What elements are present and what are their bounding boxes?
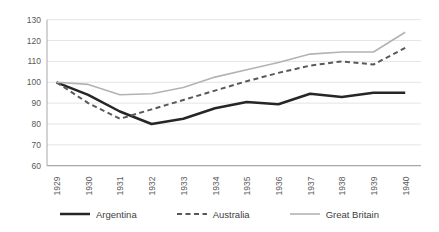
x-tick-label-1935: 1935	[242, 176, 252, 195]
x-tick-label-1934: 1934	[211, 176, 221, 195]
x-tick-label-1936: 1936	[274, 176, 284, 195]
y-tick-label-110: 110	[27, 56, 41, 66]
legend-label-great-britain: Great Britain	[326, 209, 379, 220]
chart-legend: ArgentinaAustraliaGreat Britain	[0, 205, 439, 223]
y-tick-label-60: 60	[32, 161, 42, 171]
x-tick-label-1930: 1930	[84, 176, 94, 195]
x-tick-label-1940: 1940	[401, 176, 411, 195]
chart-plot-area: 6070809010011012013019291930193119321933…	[0, 0, 439, 232]
x-tick-label-1933: 1933	[179, 176, 189, 195]
y-tick-label-100: 100	[27, 77, 41, 87]
legend-item-australia: Australia	[177, 209, 250, 220]
x-tick-label-1938: 1938	[337, 176, 347, 195]
legend-item-great-britain: Great Britain	[290, 209, 379, 220]
legend-line-sample-great-britain	[290, 211, 320, 217]
y-tick-label-120: 120	[27, 36, 41, 46]
x-tick-label-1939: 1939	[369, 176, 379, 195]
x-tick-label-1937: 1937	[306, 176, 316, 195]
legend-item-argentina: Argentina	[60, 209, 137, 220]
series-line-australia	[57, 48, 406, 119]
x-tick-label-1932: 1932	[147, 176, 157, 195]
legend-label-australia: Australia	[213, 209, 250, 220]
x-tick-label-1929: 1929	[52, 176, 62, 195]
legend-line-sample-argentina	[60, 211, 90, 217]
x-tick-label-1931: 1931	[115, 176, 125, 195]
legend-line-sample-australia	[177, 211, 207, 217]
y-tick-label-130: 130	[27, 15, 41, 25]
y-tick-label-80: 80	[32, 119, 42, 129]
y-tick-label-70: 70	[32, 140, 42, 150]
legend-label-argentina: Argentina	[96, 209, 137, 220]
line-chart: 6070809010011012013019291930193119321933…	[0, 0, 439, 232]
y-tick-label-90: 90	[32, 98, 42, 108]
